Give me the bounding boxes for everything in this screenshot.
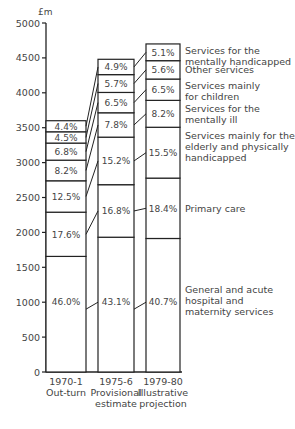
segment-label: 6.5%	[105, 98, 128, 108]
x-category-label: Provisional	[90, 387, 141, 398]
y-tick-label: 3000	[16, 157, 40, 168]
segment-label: 18.4%	[149, 204, 178, 214]
series-label: maternity services	[185, 306, 273, 317]
segment-label: 15.5%	[149, 148, 178, 158]
y-tick-label: 2500	[16, 192, 40, 203]
stacked-bar-chart: £m05001000150020002500300035004000450050…	[0, 0, 295, 429]
bar-segment	[46, 256, 86, 372]
y-tick-label: 1000	[16, 297, 40, 308]
segment-label: 15.2%	[102, 156, 131, 166]
segment-label: 17.6%	[52, 230, 81, 240]
x-category-label: Out-turn	[46, 387, 86, 398]
y-tick-label: 5000	[16, 18, 40, 29]
segment-label: 8.2%	[152, 109, 175, 119]
y-tick-label: 2000	[16, 227, 40, 238]
series-label: for children	[185, 91, 239, 102]
y-tick-label: 500	[22, 332, 40, 343]
segment-label: 12.5%	[52, 192, 81, 202]
x-category-label: 1979-80	[143, 376, 183, 387]
segment-label: 4.9%	[105, 62, 128, 72]
series-labels: General and acutehospital andmaternity s…	[185, 45, 295, 317]
segment-label: 5.6%	[152, 65, 175, 75]
segment-label: 4.4%	[55, 122, 78, 132]
x-category-label: projection	[139, 398, 186, 409]
segment-label: 46.0%	[52, 297, 81, 307]
series-label: elderly and physically	[185, 141, 289, 152]
series-label: Services mainly for the	[185, 130, 295, 141]
segment-label: 40.7%	[149, 297, 178, 307]
series-label: Services for the	[185, 45, 260, 56]
series-label: Services for the	[185, 103, 260, 114]
x-category-label: 1975-6	[99, 376, 133, 387]
segment-label: 6.5%	[152, 85, 175, 95]
segment-label: 8.2%	[55, 166, 78, 176]
segment-label: 4.5%	[55, 133, 78, 143]
x-axis-labels: 1970-1Out-turn1975-6Provisionalestimate1…	[46, 376, 188, 409]
x-category-label: Illustrative	[138, 387, 188, 398]
series-label: Primary care	[185, 203, 245, 214]
bars: 46.0%17.6%12.5%8.2%6.8%4.5%4.4%43.1%16.8…	[46, 44, 180, 372]
y-tick-label: 0	[34, 367, 40, 378]
segment-label: 6.8%	[55, 147, 78, 157]
y-tick-label: 1500	[16, 262, 40, 273]
series-label: mentally handicapped	[185, 56, 291, 67]
x-category-label: estimate	[95, 398, 137, 409]
y-tick-label: 3500	[16, 122, 40, 133]
segment-label: 43.1%	[102, 297, 131, 307]
y-axis-unit: £m	[38, 7, 53, 17]
segment-label: 7.8%	[105, 120, 128, 130]
series-label: hospital and	[185, 295, 244, 306]
series-label: mentally ill	[185, 114, 238, 125]
series-label: General and acute	[185, 284, 273, 295]
y-tick-label: 4000	[16, 87, 40, 98]
segment-label: 5.1%	[152, 48, 175, 58]
series-label: Services mainly	[185, 80, 260, 91]
y-tick-label: 4500	[16, 52, 40, 63]
segment-label: 5.7%	[105, 79, 128, 89]
segment-label: 16.8%	[102, 206, 131, 216]
x-category-label: 1970-1	[49, 376, 83, 387]
series-label: handicapped	[185, 152, 247, 163]
